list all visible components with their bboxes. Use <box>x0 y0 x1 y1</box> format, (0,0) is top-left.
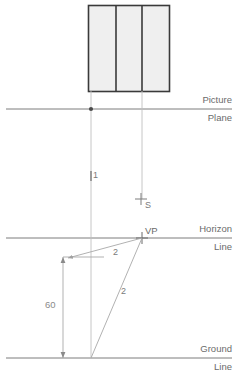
elevation-rectangle <box>89 6 170 92</box>
vp-ray-upper <box>68 238 142 258</box>
dimension-arrow-down <box>61 352 66 358</box>
height-dimension-label: 60 <box>45 300 56 310</box>
annotation-label-2b: 2 <box>121 287 126 296</box>
station-point-label: S <box>145 201 151 210</box>
dimension-arrow-up <box>61 257 66 263</box>
perspective-diagram: Picture Plane Horizon Line Ground Line 1… <box>0 0 238 377</box>
horizon-line-label-bottom: Line <box>214 242 232 252</box>
picture-plane-label-bottom: Plane <box>208 113 232 123</box>
horizon-line-label-top: Horizon <box>199 224 232 234</box>
picture-plane-point <box>89 107 93 111</box>
ground-line-label-top: Ground <box>200 344 232 354</box>
ground-line-label-bottom: Line <box>214 362 232 372</box>
picture-plane-label-top: Picture <box>202 95 232 105</box>
annotation-label-1: 1 <box>93 171 98 180</box>
annotation-label-2a: 2 <box>113 248 118 257</box>
diagram-canvas <box>0 0 238 377</box>
vanishing-point-label: VP <box>145 226 158 236</box>
